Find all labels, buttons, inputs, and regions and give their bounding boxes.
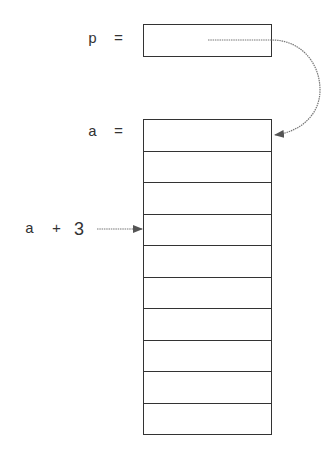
pointer-arrow-icon [208, 40, 320, 135]
arrows [0, 0, 334, 456]
